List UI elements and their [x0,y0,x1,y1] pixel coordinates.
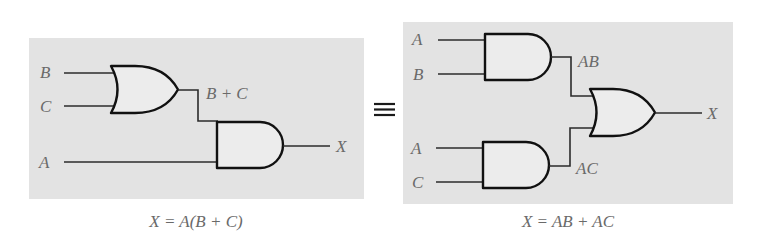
equivalence-icon [374,104,395,115]
right-caption: X = AB + AC [521,212,615,231]
left-caption: X = A(B + C) [148,212,243,231]
and-gate-ac-icon [483,142,549,188]
input-label-b: B [40,63,51,82]
output-label-x: X [706,104,718,123]
left-circuit: B C A B + C X X = A(B + C) [29,38,364,231]
input-label-a1: A [411,30,423,49]
intermediate-label-ac: AC [575,159,598,178]
intermediate-label-b-plus-c: B + C [206,84,248,103]
intermediate-label-ab: AB [577,52,599,71]
right-circuit: A B A C AB AC X X = AB + AC [403,22,733,231]
input-label-a: A [38,153,50,172]
input-label-c: C [412,173,424,192]
left-panel-background [29,38,364,199]
logic-equivalence-diagram: B C A B + C X X = A(B + C) A [0,0,765,247]
output-label-x: X [335,137,347,156]
input-label-c: C [40,97,52,116]
input-label-a2: A [410,139,422,158]
and-gate-icon [217,122,283,168]
and-gate-ab-icon [485,34,551,80]
input-label-b: B [413,65,424,84]
